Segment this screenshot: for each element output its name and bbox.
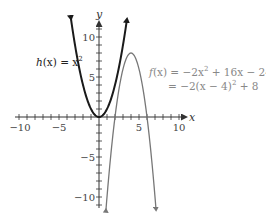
f-function-label-line2: = −2(x − 4)2 + 8 — [168, 79, 259, 92]
axes — [15, 22, 186, 208]
f-tail2: + 8 — [236, 80, 258, 92]
h-exponent: 2 — [78, 55, 82, 63]
x-axis-label: x — [189, 111, 196, 124]
f-tail1: + 16x − 24 — [208, 66, 266, 78]
x-tick-label-10: 10 — [173, 122, 186, 133]
y-tick-label-neg10: −10 — [74, 192, 95, 203]
f-arg: (x) = −2x — [153, 66, 204, 78]
y-tick-label-10: 10 — [82, 32, 95, 43]
y-tick-label-neg5: −5 — [80, 152, 95, 163]
f-function-label-line1: f(x) = −2x2 + 16x − 24 — [148, 65, 266, 78]
x-tick-label-neg5: −5 — [52, 122, 67, 133]
parabola-chart: −10 −5 5 10 10 5 −5 −10 x y h(x) = x2 f(… — [0, 0, 266, 220]
y-axis-label: y — [95, 8, 103, 21]
f-vertex-form: = −2(x − 4) — [168, 80, 232, 92]
h-function-label: h(x) = x2 — [36, 55, 83, 68]
h-name: h — [36, 56, 43, 68]
y-tick-label-5: 5 — [89, 72, 95, 83]
x-tick-label-5: 5 — [136, 122, 142, 133]
x-tick-label-neg10: −10 — [9, 122, 30, 133]
h-arg: (x) = x — [43, 56, 79, 68]
